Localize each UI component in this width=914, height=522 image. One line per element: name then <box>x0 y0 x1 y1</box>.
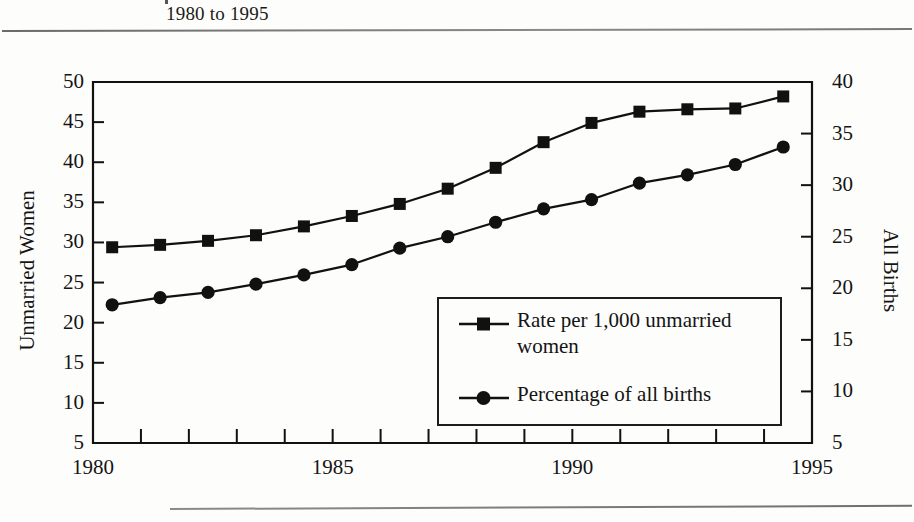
data-point-square <box>202 235 214 247</box>
plot-area <box>0 0 914 522</box>
legend-label-percentage: Percentage of all births <box>517 381 775 407</box>
data-point-circle <box>777 140 790 153</box>
data-point-square <box>298 220 310 232</box>
data-point-square <box>729 102 741 114</box>
data-point-square <box>777 90 789 102</box>
data-point-square <box>633 106 645 118</box>
data-point-circle <box>537 202 550 215</box>
data-point-circle <box>441 230 454 243</box>
data-point-circle <box>681 168 694 181</box>
legend[interactable]: Rate per 1,000 unmarried women Percentag… <box>437 297 782 426</box>
data-point-square <box>394 198 406 210</box>
data-point-square <box>442 183 454 195</box>
data-point-square <box>681 103 693 115</box>
data-point-circle <box>729 158 742 171</box>
legend-label-rate: Rate per 1,000 unmarried women <box>517 307 775 359</box>
data-point-circle <box>106 298 119 311</box>
data-point-square <box>490 162 502 174</box>
data-point-circle <box>249 278 262 291</box>
square-marker-icon <box>457 314 511 334</box>
data-point-square <box>106 241 118 253</box>
data-point-circle <box>201 286 214 299</box>
data-point-circle <box>489 216 502 229</box>
data-point-circle <box>345 258 358 271</box>
data-point-circle <box>393 241 406 254</box>
data-point-circle <box>154 291 167 304</box>
data-point-square <box>586 117 598 129</box>
data-point-circle <box>297 268 310 281</box>
data-point-square <box>346 210 358 222</box>
chart-page: 1980 to 1995 Unmarried Women All Births … <box>0 0 914 522</box>
data-point-square <box>538 136 550 148</box>
data-point-circle <box>633 176 646 189</box>
data-point-square <box>250 229 262 241</box>
circle-marker-icon <box>457 388 511 408</box>
data-point-circle <box>585 193 598 206</box>
data-point-square <box>154 239 166 251</box>
